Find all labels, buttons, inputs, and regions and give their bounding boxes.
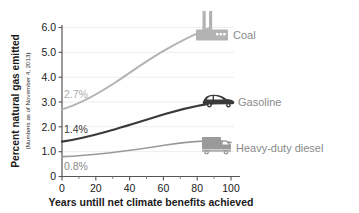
x-axis-title: Years untill net climate benefits achiev… — [49, 196, 254, 208]
x-tick-labels: 0 20 40 60 80 100 — [59, 182, 240, 194]
y-tick-label-3: 3.0 — [41, 96, 56, 108]
natural-gas-emissions-line-chart: 6.0 5.0 4.0 3.0 2.0 1.0 0 0 20 40 60 80 … — [0, 0, 359, 213]
y-axis-title: Percent natural gas emitted — [10, 34, 21, 168]
x-tick-label-60: 60 — [158, 182, 170, 194]
factory-windows — [216, 33, 226, 35]
factory-smokestack-left — [203, 11, 206, 30]
y-tick-label-4: 4.0 — [41, 71, 56, 83]
x-tick-label-20: 20 — [90, 182, 102, 194]
diesel-start-percent-label: 0.8% — [64, 160, 88, 172]
y-tick-label-5: 5.0 — [41, 46, 56, 58]
legend-label-coal: Coal — [233, 29, 256, 41]
y-tick-label-2: 2.0 — [41, 121, 56, 133]
legend-label-heavy-duty-diesel: Heavy-duty diesel — [236, 142, 323, 154]
x-tick-label-0: 0 — [59, 182, 65, 194]
legend-label-gasoline: Gasoline — [238, 96, 281, 108]
y-tick-label-6: 6.0 — [41, 21, 56, 33]
chart-container: 6.0 5.0 4.0 3.0 2.0 1.0 0 0 20 40 60 80 … — [0, 0, 359, 213]
factory-smokestack-right — [209, 11, 212, 30]
y-tick-label-0: 0 — [50, 170, 56, 182]
x-tick-label-40: 40 — [124, 182, 136, 194]
truck-trailer — [202, 137, 221, 150]
x-tick-label-100: 100 — [222, 182, 240, 194]
y-axis-subtitle: (Numbers as of November 4, 2013) — [24, 53, 31, 150]
x-tick-label-80: 80 — [191, 182, 203, 194]
coal-start-percent-label: 2.7% — [64, 88, 88, 100]
gasoline-start-percent-label: 1.4% — [64, 123, 88, 135]
y-tick-labels: 6.0 5.0 4.0 3.0 2.0 1.0 0 — [41, 21, 56, 182]
y-tick-label-1: 1.0 — [41, 145, 56, 157]
